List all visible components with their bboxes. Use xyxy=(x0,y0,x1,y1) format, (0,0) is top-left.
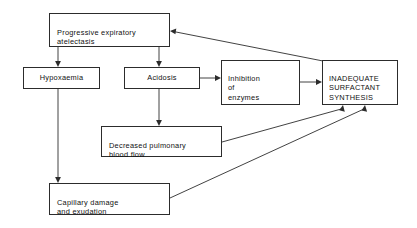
edge-hypoxaemia-to-capillary xyxy=(55,89,61,183)
edge-acidosis-to-inhibition xyxy=(200,75,221,81)
node-capillary-damage-and-exudation[interactable]: Capillary damage and exudation xyxy=(49,183,170,215)
node-label: Capillary damage and exudation xyxy=(57,198,169,217)
edge-acidosis-to-decreased-flow xyxy=(156,89,162,126)
node-label: Acidosis xyxy=(147,73,177,83)
node-progressive-expiratory-atelectasis[interactable]: Progressive expiratory atelectasis xyxy=(49,13,170,47)
node-label: INADEQUATE SURFACTANT SYNTHESIS xyxy=(329,74,397,103)
node-label: Progressive expiratory atelectasis xyxy=(57,28,169,47)
node-inadequate-surfactant-synthesis[interactable]: INADEQUATE SURFACTANT SYNTHESIS xyxy=(322,60,398,105)
edge-inhibition-to-inadequate xyxy=(300,79,322,85)
node-decreased-pulmonary-blood-flow[interactable]: Decreased pulmonary blood flow xyxy=(101,126,222,157)
edge-inadequate-to-atelectasis xyxy=(170,29,323,62)
node-inhibition-of-enzymes[interactable]: Inhibition of enzymes xyxy=(221,60,300,105)
node-hypoxaemia[interactable]: Hypoxaemia xyxy=(23,67,100,89)
node-label: Decreased pulmonary blood flow xyxy=(109,141,221,160)
node-label: Hypoxaemia xyxy=(40,73,84,83)
node-acidosis[interactable]: Acidosis xyxy=(124,67,200,89)
node-label: Inhibition of enzymes xyxy=(228,74,299,103)
flowchart-diagram: Progressive expiratory atelectasis Hypox… xyxy=(0,0,417,228)
